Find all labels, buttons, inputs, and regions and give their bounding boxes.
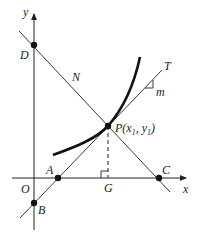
origin-label: O [21,182,30,196]
tangent-normal-diagram: y x O D N T m A B C G P(x1, y1) [0,0,197,232]
point-b [31,200,37,206]
x-axis-label: x [182,182,189,196]
diagram-canvas: y x O D N T m A B C G P(x1, y1) [0,0,197,232]
label-p: P(x1, y1) [114,121,155,137]
label-a: A [45,163,54,177]
label-c: C [162,163,171,177]
y-axis-label: y [22,5,29,19]
point-p [105,123,111,129]
label-g: G [104,181,113,195]
label-n: N [71,70,81,84]
label-b: B [38,203,46,217]
svg-text:P(x1, y1): P(x1, y1) [114,121,155,137]
point-a [55,175,61,181]
label-m: m [156,85,165,99]
label-d: D [19,48,29,62]
point-d [31,42,37,48]
tangent-line [20,70,162,218]
normal-line [19,31,170,192]
label-t: T [164,59,172,73]
right-angle-g [101,171,108,178]
